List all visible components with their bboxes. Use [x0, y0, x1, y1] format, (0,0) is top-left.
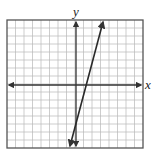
coordinate-plane	[0, 0, 152, 158]
x-axis-label: x	[145, 77, 151, 93]
y-axis-label: y	[73, 4, 79, 20]
